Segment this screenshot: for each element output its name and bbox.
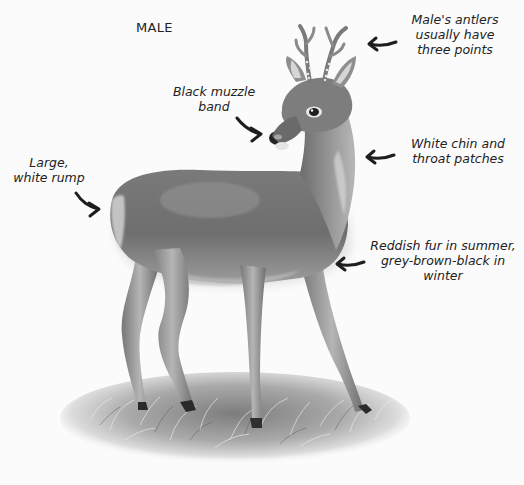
fur-arrow [337,258,364,270]
deer-diagram: MALE Male's antlers usually have three p… [0,0,524,485]
sex-heading: MALE [136,20,173,35]
label-muzzle: Black muzzle band [168,84,260,114]
rump-arrow [76,193,99,216]
chin-arrow [367,151,394,163]
label-rump: Large, white rump [10,155,88,185]
muzzle-arrow [237,118,261,141]
antlers-arrow [369,38,396,50]
grass-patch [60,372,410,464]
label-fur-color: Reddish fur in summer, grey-brown-black … [368,238,518,283]
label-antlers: Male's antlers usually have three points [398,12,512,57]
label-chin-throat: White chin and throat patches [396,136,520,166]
